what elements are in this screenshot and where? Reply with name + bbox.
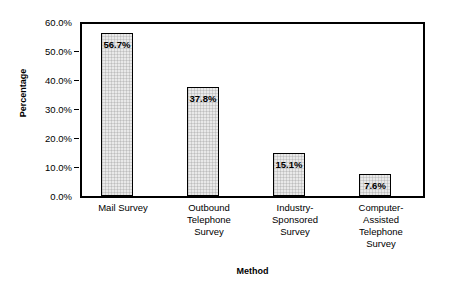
y-tick-mark-10 [74, 167, 79, 168]
bar-outbound-telephone-survey: 37.8% [187, 87, 219, 196]
bar-value-label-3: 7.6% [353, 180, 397, 191]
y-tick-mark-40 [74, 80, 79, 81]
y-tick-mark-20 [74, 138, 79, 139]
bars-layer: 56.7% 37.8% 15.1% 7.6% [82, 24, 423, 196]
y-axis-tick-labels: 60.0% 50.0% 40.0% 30.0% 20.0% 10.0% 0.0% [24, 0, 72, 296]
bar-computer-assisted-telephone-survey: 7.6% [359, 174, 391, 196]
bar-value-label-2: 15.1% [267, 159, 311, 170]
y-tick-label-30: 30.0% [28, 105, 72, 115]
y-tick-label-40: 40.0% [28, 76, 72, 86]
x-axis-title: Method [80, 266, 425, 276]
plot-area: 56.7% 37.8% 15.1% 7.6% [80, 22, 425, 198]
y-tick-mark-50 [74, 51, 79, 52]
x-tick-label-3: Computer- Assisted Telephone Survey [330, 202, 432, 250]
bar-chart: Percentage 60.0% 50.0% 40.0% 30.0% 20.0%… [0, 0, 453, 296]
y-tick-mark-30 [74, 109, 79, 110]
y-tick-label-0: 0.0% [28, 192, 72, 202]
bar-value-label-1: 37.8% [181, 93, 225, 104]
bar-mail-survey: 56.7% [101, 33, 133, 196]
bar-industry-sponsored-survey: 15.1% [273, 153, 305, 196]
y-tick-label-20: 20.0% [28, 134, 72, 144]
y-tick-label-10: 10.0% [28, 163, 72, 173]
y-tick-label-60: 60.0% [28, 18, 72, 28]
bar-value-label-0: 56.7% [95, 39, 139, 50]
y-tick-label-50: 50.0% [28, 47, 72, 57]
